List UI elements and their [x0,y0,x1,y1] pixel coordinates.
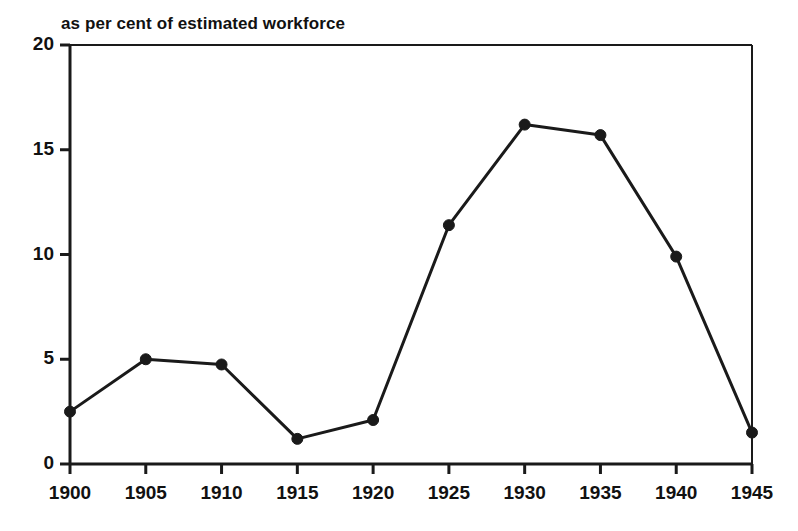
x-tick-label: 1935 [560,482,640,504]
y-tick-label: 15 [0,138,54,160]
y-tick-label: 10 [0,243,54,265]
x-tick-label: 1925 [409,482,489,504]
data-point-marker [747,427,758,438]
y-tick-label: 0 [0,452,54,474]
data-point-marker [65,406,76,417]
data-point-marker [140,354,151,365]
chart-figure: as per cent of estimated workforce 05101… [0,0,798,531]
data-point-marker [368,415,379,426]
x-tick-label: 1905 [106,482,186,504]
x-tick-label: 1945 [712,482,792,504]
data-line [70,125,752,439]
data-point-marker [671,251,682,262]
data-point-marker [595,130,606,141]
x-tick-label: 1910 [182,482,262,504]
x-tick-label: 1915 [257,482,337,504]
tick-marks-group [60,45,752,474]
data-point-marker [292,433,303,444]
x-tick-label: 1920 [333,482,413,504]
y-tick-label: 20 [0,33,54,55]
y-tick-label: 5 [0,347,54,369]
data-series-group [70,125,752,439]
x-tick-label: 1930 [485,482,565,504]
data-point-marker [443,220,454,231]
data-point-marker [519,119,530,130]
axes-group [70,45,752,464]
line-chart-plot [0,0,798,531]
data-point-marker [216,359,227,370]
x-tick-label: 1940 [636,482,716,504]
data-point-markers-group [65,119,758,444]
x-tick-label: 1900 [30,482,110,504]
